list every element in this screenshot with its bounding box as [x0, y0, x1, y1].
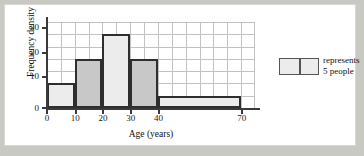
histogram-bar-30-40[interactable] — [130, 59, 158, 108]
x-tick-label-0: 0 — [37, 114, 57, 123]
legend-text-line1: represents — [323, 55, 359, 66]
plot-area — [47, 22, 255, 108]
figure-panel: Frequency density 30 20 10 0 — [4, 4, 356, 146]
legend-swatch — [279, 58, 319, 75]
legend-text: represents 5 people — [323, 55, 359, 77]
x-tick-label-70: 70 — [232, 114, 252, 123]
y-tick-label-30: 30 — [17, 23, 39, 32]
x-axis-title: Age (years) — [47, 129, 255, 139]
y-tick-label-0: 0 — [17, 104, 39, 113]
x-tick-label-40: 40 — [149, 114, 169, 123]
y-axis-line — [46, 17, 48, 113]
legend-text-line2: 5 people — [323, 66, 359, 77]
legend-swatch-divider — [299, 59, 301, 74]
x-axis-line — [46, 108, 260, 110]
histogram-bar-10-20[interactable] — [75, 59, 103, 108]
x-tick-label-30: 30 — [121, 114, 141, 123]
histogram-bar-20-30[interactable] — [102, 34, 130, 108]
x-tick-label-10: 10 — [65, 114, 85, 123]
histogram-bar-0-10[interactable] — [47, 83, 75, 108]
histogram-bar-40-70[interactable] — [158, 96, 241, 108]
x-tick-label-20: 20 — [93, 114, 113, 123]
y-tick-label-10: 10 — [17, 72, 39, 81]
y-tick-label-20: 20 — [17, 48, 39, 57]
